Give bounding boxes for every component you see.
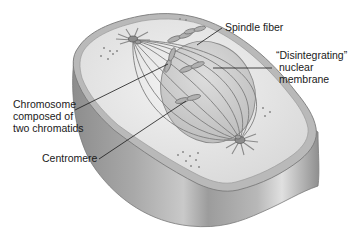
label-spindle-fiber: Spindle fiber	[225, 21, 283, 33]
label-chromosome-line2: composed of	[13, 110, 84, 122]
label-chromosome-line3: two chromatids	[13, 122, 84, 134]
label-nuclear-membrane: “Disintegrating” nuclear membrane	[276, 49, 347, 85]
mitosis-cell-diagram: Spindle fiber “Disintegrating” nuclear m…	[0, 0, 356, 237]
label-centromere: Centromere	[42, 152, 97, 164]
label-chromosome-line1: Chromosome	[13, 98, 84, 110]
label-centromere-text: Centromere	[42, 152, 97, 164]
label-nuclear-membrane-line3: membrane	[276, 73, 347, 85]
label-chromosome: Chromosome composed of two chromatids	[13, 98, 84, 134]
label-nuclear-membrane-line2: nuclear	[276, 61, 347, 73]
label-spindle-fiber-text: Spindle fiber	[225, 21, 283, 33]
label-nuclear-membrane-line1: “Disintegrating”	[276, 49, 347, 61]
